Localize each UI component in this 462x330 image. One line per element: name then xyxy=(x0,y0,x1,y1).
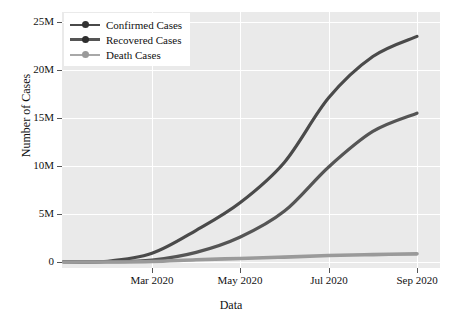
chart-legend: Confirmed Cases Recovered Cases Death Ca… xyxy=(64,13,190,66)
y-axis-label: Number of Cases xyxy=(19,46,34,186)
y-tick-label-0: 0 xyxy=(8,256,54,267)
series-line-recovered-cases xyxy=(64,113,417,262)
legend-label-recovered-cases: Recovered Cases xyxy=(106,34,181,46)
y-tick-mark-10M xyxy=(57,166,62,167)
x-tick-label-mar-2020: Mar 2020 xyxy=(112,274,192,286)
y-tick-mark-20M xyxy=(57,70,62,71)
legend-item-confirmed-cases[interactable]: Confirmed Cases xyxy=(70,17,182,32)
y-tick-label-5M: 5M xyxy=(8,208,54,219)
series-line-death-cases xyxy=(64,254,417,262)
y-tick-mark-5M xyxy=(57,214,62,215)
legend-marker-confirmed-cases xyxy=(70,19,100,31)
x-tick-mark-may-2020 xyxy=(240,268,241,273)
series-line-confirmed-cases xyxy=(64,36,417,262)
x-tick-mark-mar-2020 xyxy=(152,268,153,273)
legend-label-confirmed-cases: Confirmed Cases xyxy=(106,19,182,31)
x-tick-label-jul-2020: Jul 2020 xyxy=(289,274,369,286)
legend-marker-death-cases xyxy=(70,49,100,61)
legend-item-recovered-cases[interactable]: Recovered Cases xyxy=(70,32,182,47)
x-tick-label-may-2020: May 2020 xyxy=(200,274,280,286)
legend-label-death-cases: Death Cases xyxy=(106,49,161,61)
x-tick-mark-jul-2020 xyxy=(329,268,330,273)
x-axis-label: Data xyxy=(0,298,462,313)
y-tick-mark-0 xyxy=(57,262,62,263)
x-tick-mark-sep-2020 xyxy=(417,268,418,273)
y-tick-mark-25M xyxy=(57,22,62,23)
covid-line-chart: 05M10M15M20M25M Mar 2020May 2020Jul 2020… xyxy=(0,0,462,330)
legend-marker-recovered-cases xyxy=(70,34,100,46)
y-tick-label-25M: 25M xyxy=(8,16,54,27)
x-tick-label-sep-2020: Sep 2020 xyxy=(377,274,457,286)
legend-item-death-cases[interactable]: Death Cases xyxy=(70,47,182,62)
y-tick-mark-15M xyxy=(57,118,62,119)
